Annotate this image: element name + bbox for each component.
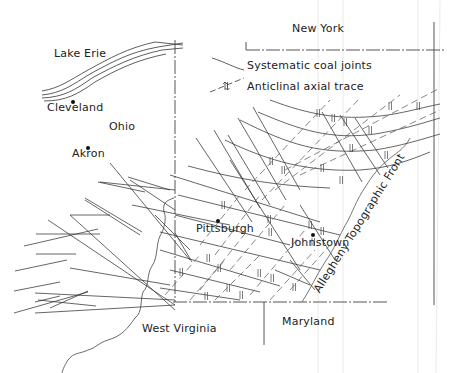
- legend-joint-line-icon: [212, 58, 244, 70]
- label-maryland: Maryland: [282, 315, 335, 328]
- anticlinal-axial-traces: [165, 88, 440, 300]
- label-cleveland: Cleveland: [47, 101, 103, 114]
- label-pittsburgh: Pittsburgh: [196, 222, 254, 235]
- legend-label-coal-joints: Systematic coal joints: [247, 59, 372, 72]
- label-lake-erie: Lake Erie: [54, 47, 106, 60]
- label-west-virginia: West Virginia: [142, 322, 217, 335]
- legend-symbols: [210, 58, 244, 92]
- label-akron: Akron: [72, 147, 105, 160]
- label-ohio: Ohio: [109, 120, 135, 133]
- legend-label-axial-trace: Anticlinal axial trace: [247, 80, 364, 93]
- ohio-river: [62, 198, 174, 373]
- label-new-york: New York: [292, 22, 344, 35]
